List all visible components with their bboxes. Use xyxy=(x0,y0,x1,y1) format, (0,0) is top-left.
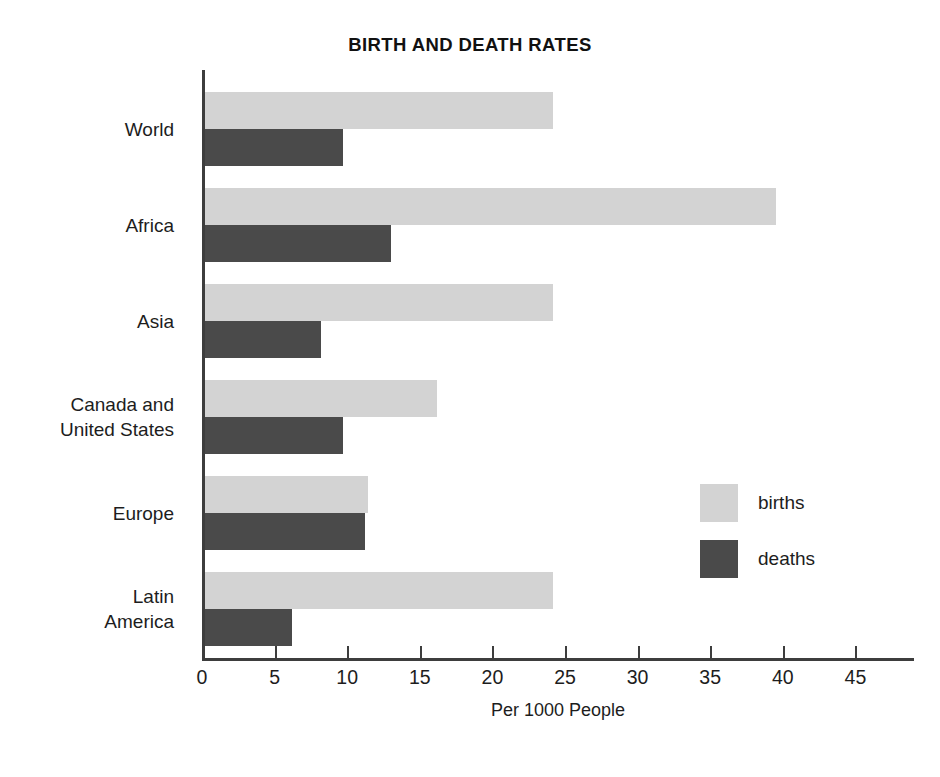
category-axis-labels: WorldAfricaAsiaCanada andUnited StatesEu… xyxy=(0,70,190,658)
bar-deaths xyxy=(205,129,343,166)
x-tick-mark xyxy=(275,646,277,658)
legend-label-births: births xyxy=(758,492,804,514)
category-label-line: World xyxy=(0,117,174,142)
bar-births xyxy=(205,92,553,129)
category-label: World xyxy=(0,117,174,142)
legend-label-deaths: deaths xyxy=(758,548,815,570)
category-label: Africa xyxy=(0,213,174,238)
x-tick-mark xyxy=(420,646,422,658)
bar-deaths xyxy=(205,417,343,454)
x-tick-label: 15 xyxy=(390,666,450,689)
category-label-line: United States xyxy=(0,417,174,442)
x-tick-label: 30 xyxy=(608,666,668,689)
bar-deaths xyxy=(205,513,365,550)
x-tick-label: 10 xyxy=(317,666,377,689)
x-tick-mark xyxy=(710,646,712,658)
bar-births xyxy=(205,572,553,609)
bar-deaths xyxy=(205,321,321,358)
bar-births xyxy=(205,380,437,417)
x-tick-mark xyxy=(638,646,640,658)
x-tick-label: 40 xyxy=(753,666,813,689)
bar-births xyxy=(205,284,553,321)
category-label: Europe xyxy=(0,501,174,526)
chart-title: BIRTH AND DEATH RATES xyxy=(0,34,940,56)
category-label-line: Canada and xyxy=(0,392,174,417)
category-label-line: Africa xyxy=(0,213,174,238)
x-tick-label: 20 xyxy=(462,666,522,689)
category-label-line: America xyxy=(0,609,174,634)
x-tick-label: 45 xyxy=(825,666,885,689)
bar-deaths xyxy=(205,225,391,262)
bar-deaths xyxy=(205,609,292,646)
x-tick-mark xyxy=(565,646,567,658)
category-label: LatinAmerica xyxy=(0,584,174,634)
x-tick-mark xyxy=(347,646,349,658)
legend-swatch-deaths xyxy=(700,540,738,578)
category-label-line: Europe xyxy=(0,501,174,526)
x-tick-mark xyxy=(855,646,857,658)
bar-births xyxy=(205,476,368,513)
category-label: Asia xyxy=(0,309,174,334)
x-tick-label: 0 xyxy=(172,666,232,689)
bar-births xyxy=(205,188,776,225)
x-axis-title: Per 1000 People xyxy=(202,700,914,721)
x-tick-label: 25 xyxy=(535,666,595,689)
category-label-line: Latin xyxy=(0,584,174,609)
x-tick-label: 35 xyxy=(680,666,740,689)
category-label: Canada andUnited States xyxy=(0,392,174,442)
x-tick-mark xyxy=(783,646,785,658)
legend-swatch-births xyxy=(700,484,738,522)
x-tick-mark xyxy=(492,646,494,658)
x-tick-label: 5 xyxy=(245,666,305,689)
bar-chart: BIRTH AND DEATH RATES WorldAfricaAsiaCan… xyxy=(0,0,940,777)
category-label-line: Asia xyxy=(0,309,174,334)
